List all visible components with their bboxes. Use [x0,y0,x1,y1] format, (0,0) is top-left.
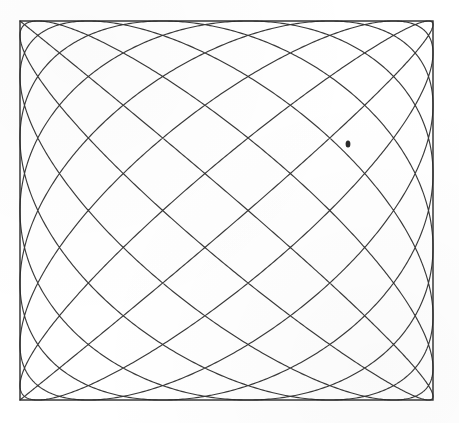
lissajous-figure [0,0,459,423]
sheet-background [0,0,459,423]
figure-page [0,0,459,423]
ink-blot-artifact [346,140,351,147]
